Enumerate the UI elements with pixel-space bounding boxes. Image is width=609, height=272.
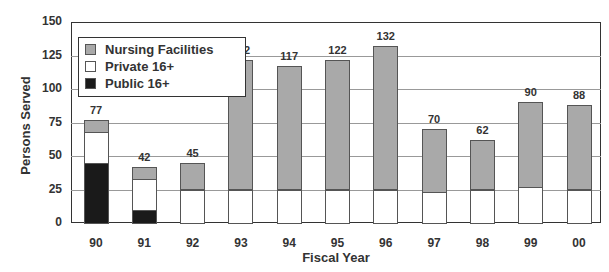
bar-segment-nursing-facilities — [277, 66, 302, 190]
bar-total-label: 45 — [173, 147, 213, 159]
bar-segment-nursing-facilities — [84, 120, 109, 133]
bar-segment-nursing-facilities — [325, 60, 350, 191]
bar-segment-private-16 — [518, 187, 543, 224]
legend-item-public-16: Public 16+ — [85, 75, 239, 92]
bar-segment-private-16 — [228, 190, 253, 225]
legend-item-nursing-facilities: Nursing Facilities — [85, 41, 239, 58]
y-tick-label: 150 — [22, 14, 62, 28]
bar-segment-nursing-facilities — [422, 129, 447, 193]
bar-segment-nursing-facilities — [567, 105, 592, 190]
bar-total-label: 62 — [462, 124, 502, 136]
legend-label: Public 16+ — [105, 76, 170, 91]
public-16-swatch — [85, 78, 96, 89]
x-tick-label: 92 — [173, 236, 213, 250]
bar-segment-nursing-facilities — [470, 140, 495, 191]
stacked-bar-chart: 0255075100125150 77424512211712213270629… — [0, 0, 609, 272]
bar-segment-nursing-facilities — [132, 167, 157, 180]
bar-segment-nursing-facilities — [180, 163, 205, 191]
bar-segment-private-16 — [470, 190, 495, 225]
y-tick-label: 125 — [22, 48, 62, 62]
y-tick-label: 25 — [22, 182, 62, 196]
bar-total-label: 42 — [124, 151, 164, 163]
bar-segment-private-16 — [84, 132, 109, 164]
x-tick-label: 00 — [559, 236, 599, 250]
x-tick-label: 90 — [76, 236, 116, 250]
y-tick-label: 0 — [22, 215, 62, 229]
bar-segment-private-16 — [132, 179, 157, 211]
bar-segment-public-16 — [84, 163, 109, 224]
x-tick-label: 91 — [124, 236, 164, 250]
bar-segment-private-16 — [325, 190, 350, 225]
legend: Nursing Facilities Private 16+ Public 16… — [78, 37, 246, 97]
bar-segment-private-16 — [422, 192, 447, 224]
legend-label: Nursing Facilities — [105, 42, 213, 57]
bar-total-label: 70 — [414, 113, 454, 125]
bar-segment-public-16 — [132, 210, 157, 224]
bar-segment-nursing-facilities — [518, 102, 543, 187]
bar-segment-nursing-facilities — [373, 46, 398, 190]
bar-total-label: 77 — [76, 104, 116, 116]
x-tick-label: 93 — [221, 236, 261, 250]
x-tick-label: 99 — [511, 236, 551, 250]
x-tick-label: 94 — [269, 236, 309, 250]
bar-segment-private-16 — [567, 190, 592, 225]
bar-total-label: 88 — [559, 89, 599, 101]
x-tick-label: 96 — [366, 236, 406, 250]
x-tick-label: 98 — [462, 236, 502, 250]
bar-total-label: 122 — [318, 44, 358, 56]
bar-total-label: 90 — [511, 86, 551, 98]
private-16-swatch — [85, 61, 96, 72]
bar-segment-private-16 — [180, 190, 205, 225]
nursing-facilities-swatch — [85, 44, 96, 55]
x-axis-title: Fiscal Year — [236, 250, 436, 265]
x-tick-label: 95 — [318, 236, 358, 250]
bar-total-label: 132 — [366, 30, 406, 42]
bar-total-label: 117 — [269, 50, 309, 62]
legend-label: Private 16+ — [105, 59, 174, 74]
bar-segment-private-16 — [277, 190, 302, 225]
bar-segment-private-16 — [373, 190, 398, 225]
legend-item-private-16: Private 16+ — [85, 58, 239, 75]
y-axis-title: Persons Served — [18, 71, 33, 181]
x-tick-label: 97 — [414, 236, 454, 250]
